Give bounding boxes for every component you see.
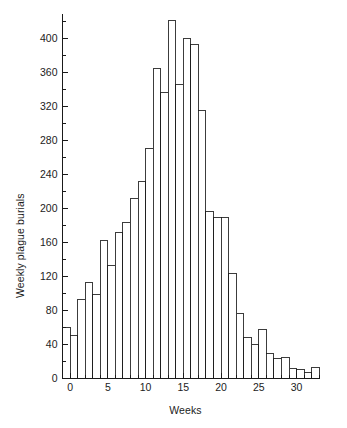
histogram-bar xyxy=(312,367,320,378)
x-tick-label: 30 xyxy=(291,381,303,393)
bars-group xyxy=(63,20,320,378)
x-tick-label: 15 xyxy=(177,381,189,393)
histogram-bar xyxy=(274,358,282,378)
y-tick-label: 400 xyxy=(40,32,58,44)
histogram-bar xyxy=(236,313,244,378)
histogram-bar xyxy=(304,373,312,379)
histogram-bar xyxy=(85,282,93,378)
histogram-bar xyxy=(176,84,184,378)
histogram-bar xyxy=(183,38,191,378)
histogram-bar xyxy=(259,329,267,378)
y-tick-label: 80 xyxy=(46,304,58,316)
histogram-bar xyxy=(93,294,101,378)
histogram-bar xyxy=(251,344,259,378)
plot-area: 0408012016020024028032036040005101520253… xyxy=(0,0,347,428)
y-tick-label: 120 xyxy=(40,270,58,282)
histogram-bar xyxy=(198,111,206,379)
x-tick-label: 25 xyxy=(253,381,265,393)
histogram-bar xyxy=(78,299,86,378)
histogram-bar xyxy=(229,274,237,379)
histogram-figure: Weekly plague burials Weeks 040801201602… xyxy=(0,0,347,428)
histogram-bar xyxy=(146,149,154,379)
histogram-bar xyxy=(297,369,305,378)
histogram-bar xyxy=(266,354,274,379)
histogram-bar xyxy=(161,93,169,379)
y-tick-label: 360 xyxy=(40,66,58,78)
histogram-bar xyxy=(70,336,78,379)
histogram-bar xyxy=(108,265,116,378)
histogram-bar xyxy=(63,327,71,378)
x-tick-label: 0 xyxy=(67,381,73,393)
histogram-bar xyxy=(130,198,138,378)
histogram-bar xyxy=(153,69,161,379)
histogram-bar xyxy=(206,212,214,379)
histogram-bar xyxy=(168,20,176,378)
histogram-bar xyxy=(100,241,108,379)
y-tick-label: 240 xyxy=(40,168,58,180)
histogram-bar xyxy=(221,218,229,379)
x-tick-label: 10 xyxy=(140,381,152,393)
y-tick-label: 160 xyxy=(40,236,58,248)
histogram-bar xyxy=(138,181,146,378)
x-tick-label: 5 xyxy=(105,381,111,393)
histogram-bar xyxy=(214,218,222,379)
histogram-bar xyxy=(123,222,131,378)
histogram-bar xyxy=(115,232,123,378)
y-tick-label: 200 xyxy=(40,202,58,214)
y-tick-label: 320 xyxy=(40,100,58,112)
y-tick-label: 0 xyxy=(52,372,58,384)
histogram-bar xyxy=(191,44,199,378)
x-tick-label: 20 xyxy=(215,381,227,393)
histogram-bar xyxy=(289,368,297,378)
y-tick-label: 280 xyxy=(40,134,58,146)
y-tick-label: 40 xyxy=(46,338,58,350)
histogram-bar xyxy=(244,338,252,379)
histogram-bar xyxy=(281,357,289,378)
